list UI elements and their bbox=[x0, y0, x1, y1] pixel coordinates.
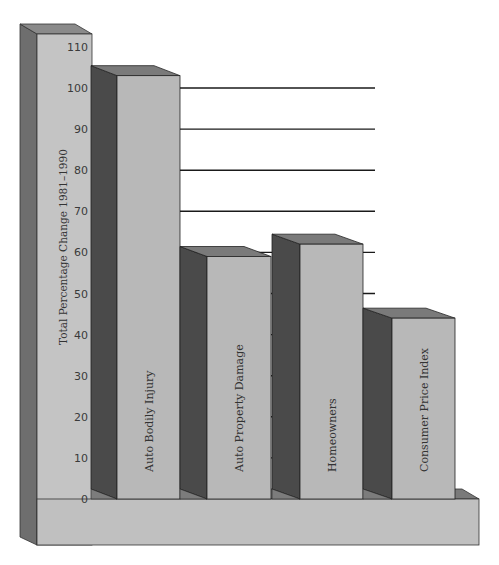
bar-side-face bbox=[180, 247, 207, 499]
axis-column-side bbox=[20, 24, 37, 545]
base-front bbox=[37, 499, 479, 545]
y-tick-label: 60 bbox=[74, 246, 88, 259]
y-tick-label: 40 bbox=[74, 329, 88, 342]
bar: Auto Bodily Injury bbox=[91, 66, 180, 499]
y-tick-label: 50 bbox=[74, 288, 88, 301]
bar-chart: Auto Bodily InjuryAuto Property DamageHo… bbox=[0, 0, 499, 565]
y-tick-label: 100 bbox=[67, 82, 88, 95]
y-tick-label: 70 bbox=[74, 205, 88, 218]
y-tick-label: 110 bbox=[67, 41, 88, 54]
bar-side-face bbox=[272, 234, 300, 499]
bar-category-label: Consumer Price Index bbox=[418, 347, 431, 472]
y-tick-label: 20 bbox=[74, 411, 88, 424]
y-tick-label: 90 bbox=[74, 123, 88, 136]
bar-side-face bbox=[91, 66, 117, 499]
y-tick-label: 80 bbox=[74, 164, 88, 177]
y-tick-label: 10 bbox=[74, 452, 88, 465]
bar-category-label: Homeowners bbox=[326, 398, 339, 472]
bar: Auto Property Damage bbox=[180, 247, 271, 499]
y-axis-title: Total Percentage Change 1981–1990 bbox=[57, 149, 69, 345]
bar-category-label: Auto Property Damage bbox=[233, 344, 246, 473]
y-tick-label: 0 bbox=[81, 493, 88, 506]
bar: Consumer Price Index bbox=[363, 308, 455, 499]
bar-category-label: Auto Bodily Injury bbox=[143, 370, 156, 473]
bar: Homeowners bbox=[272, 234, 363, 499]
bar-side-face bbox=[363, 308, 392, 499]
bars: Auto Bodily InjuryAuto Property DamageHo… bbox=[91, 66, 455, 499]
y-tick-label: 30 bbox=[74, 370, 88, 383]
y-axis-column bbox=[20, 24, 92, 545]
